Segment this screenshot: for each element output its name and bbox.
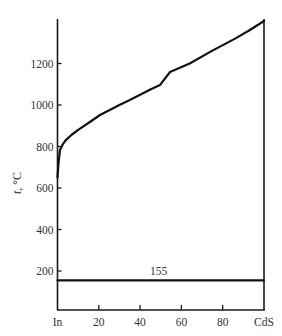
y-tick-label: 200 — [36, 265, 54, 277]
series — [58, 21, 265, 280]
y-axis-label-unit: , °C — [10, 172, 24, 191]
x-tick-label: 20 — [93, 316, 105, 328]
liquidus-line — [58, 21, 265, 178]
y-tick-label: 800 — [36, 141, 54, 153]
phase-diagram-chart: 20040060080010001200 In20406080CdS 155 t… — [0, 0, 282, 336]
x-tick-label: 60 — [176, 316, 188, 328]
x-tick-label: CdS — [254, 316, 274, 328]
x-ticks: In20406080CdS — [53, 305, 274, 328]
eutectic-annotation: 155 — [150, 265, 168, 277]
x-tick-label: In — [53, 316, 63, 328]
x-tick-label: 80 — [217, 316, 229, 328]
y-tick-label: 1000 — [31, 99, 54, 111]
y-tick-label: 600 — [36, 182, 54, 194]
y-tick-label: 400 — [36, 224, 54, 236]
y-tick-label: 1200 — [31, 58, 54, 70]
y-axis-label: t, °C — [10, 172, 24, 194]
x-tick-label: 40 — [134, 316, 146, 328]
